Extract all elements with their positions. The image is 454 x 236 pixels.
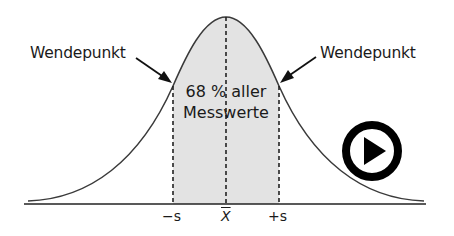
tick-mean: X — [221, 208, 231, 224]
tick-minus-s: −s — [162, 208, 181, 224]
center-annotation: 68 % aller Messwerte — [171, 81, 281, 123]
center-annotation-line1: 68 % aller — [171, 81, 281, 102]
arrow-left-icon — [136, 58, 172, 83]
arrow-right-icon — [280, 57, 316, 83]
play-icon — [341, 120, 403, 182]
center-annotation-line2: Messwerte — [171, 102, 281, 123]
inflection-point-label-right: Wendepunkt — [320, 44, 416, 62]
tick-plus-s: +s — [268, 208, 287, 224]
inflection-point-label-left: Wendepunkt — [30, 44, 126, 62]
play-button[interactable] — [341, 120, 403, 182]
